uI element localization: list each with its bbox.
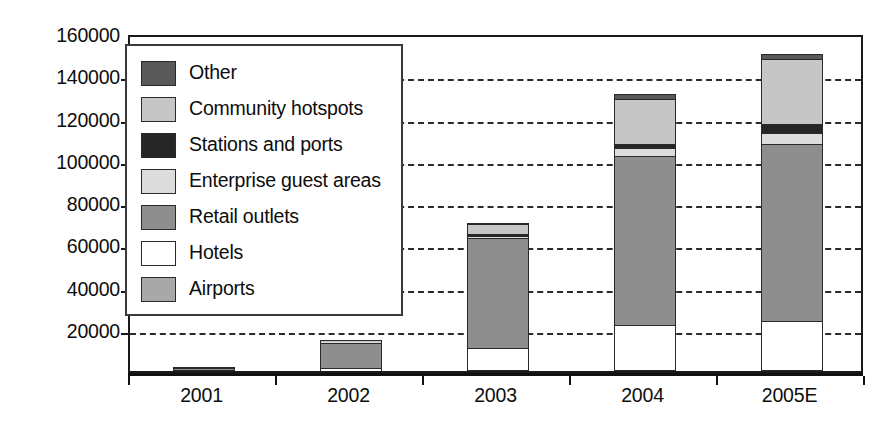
legend-item-label: Hotels [189, 243, 243, 263]
legend-item: Retail outlets [141, 199, 401, 235]
bar-segment [320, 340, 382, 342]
legend-item: Stations and ports [141, 127, 401, 163]
bar-segment [467, 236, 529, 238]
legend-swatch-icon [141, 97, 176, 122]
bar-2003 [467, 223, 529, 371]
legend-swatch-icon [141, 277, 176, 302]
bar-segment [761, 133, 823, 144]
legend-swatch-icon [141, 241, 176, 266]
y-axis-tick-label: 60000 [2, 235, 120, 258]
legend-item-label: Enterprise guest areas [189, 171, 381, 191]
legend-item-label: Community hotspots [189, 99, 363, 119]
bar-segment [614, 94, 676, 98]
legend-item: Hotels [141, 235, 401, 271]
bar-segment [467, 223, 529, 225]
x-axis-tick-label: 2004 [621, 384, 664, 407]
bar-segment [614, 148, 676, 155]
bar-2002 [320, 341, 382, 371]
bar-segment [761, 321, 823, 370]
legend-item-label: Stations and ports [189, 135, 343, 155]
bar-segment [614, 156, 676, 325]
bar-segment [761, 59, 823, 123]
bar-segment [320, 368, 382, 371]
bar-2001 [173, 368, 235, 371]
legend-item: Other [141, 55, 401, 91]
x-axis-tick-label: 2003 [474, 384, 517, 407]
bar-segment [761, 124, 823, 134]
legend-item-label: Other [189, 63, 237, 83]
y-axis-tick-label: 160000 [2, 24, 120, 47]
legend-item: Airports [141, 271, 401, 307]
y-axis-tick-label: 40000 [2, 277, 120, 300]
stacked-bar-chart: 2000040000600008000010000012000014000016… [0, 0, 895, 434]
bar-segment [614, 325, 676, 370]
legend-swatch-icon [141, 61, 176, 86]
bar-segment [761, 144, 823, 321]
y-axis-tick [121, 333, 130, 335]
y-axis-tick-label: 20000 [2, 319, 120, 342]
bar-segment [467, 238, 529, 348]
x-axis-labels: 20012002200320042005E [128, 384, 863, 418]
bar-segment [467, 234, 529, 237]
legend-item: Community hotspots [141, 91, 401, 127]
x-axis-tick-label: 2005E [762, 384, 817, 407]
y-axis-tick-label: 120000 [2, 108, 120, 131]
legend-swatch-icon [141, 169, 176, 194]
bar-segment [467, 348, 529, 370]
chart-legend: OtherCommunity hotspotsStations and port… [125, 44, 403, 316]
bar-segment [761, 54, 823, 59]
legend-swatch-icon [141, 205, 176, 230]
legend-item: Enterprise guest areas [141, 163, 401, 199]
legend-swatch-icon [141, 133, 176, 158]
y-axis-tick-label: 100000 [2, 150, 120, 173]
bar-segment [173, 367, 235, 369]
y-axis-tick-label: 140000 [2, 66, 120, 89]
bar-2004 [614, 94, 676, 371]
bar-segment [320, 343, 382, 368]
bar-segment [614, 99, 676, 144]
legend-item-label: Retail outlets [189, 207, 299, 227]
x-axis-tick-label: 2001 [180, 384, 223, 407]
x-axis-tick [863, 376, 865, 385]
y-axis-labels: 2000040000600008000010000012000014000016… [0, 35, 126, 373]
legend-item-label: Airports [189, 279, 255, 299]
bar-segment [467, 224, 529, 234]
bar-segment [614, 144, 676, 148]
bar-2005E [761, 54, 823, 371]
x-axis [128, 373, 863, 376]
x-axis-tick-label: 2002 [327, 384, 370, 407]
y-axis-tick-label: 80000 [2, 193, 120, 216]
